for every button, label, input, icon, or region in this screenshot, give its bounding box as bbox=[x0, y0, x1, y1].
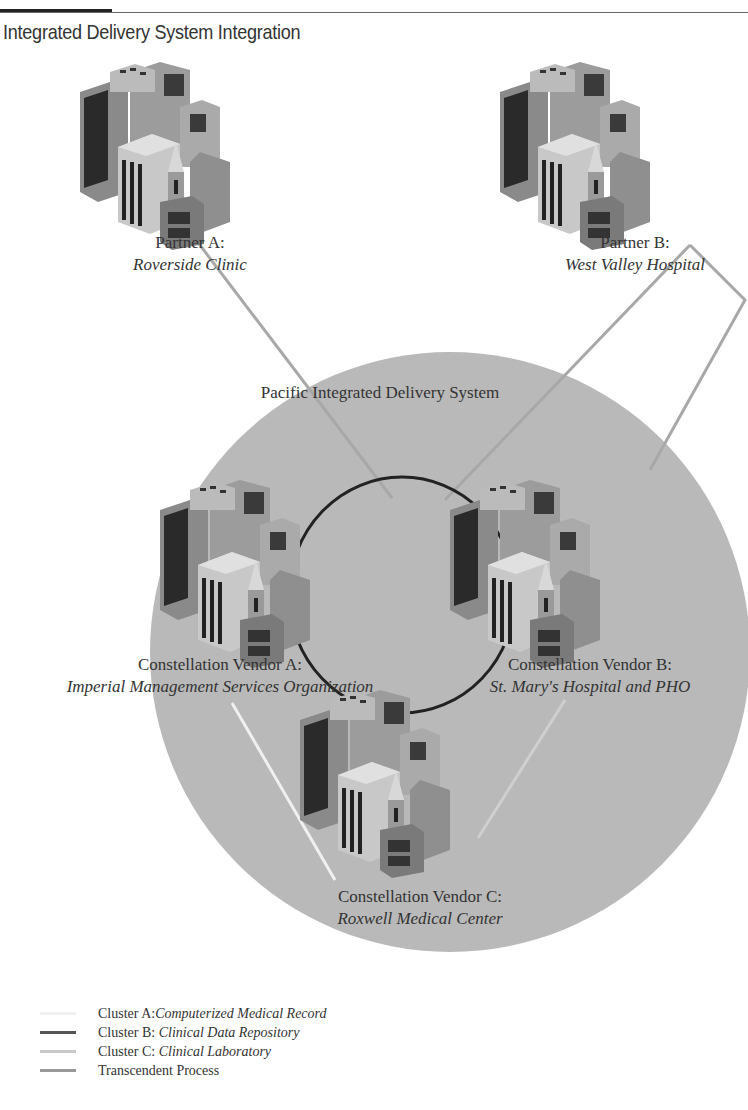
legend-item-cluster-c: Cluster C: Clinical Laboratory bbox=[40, 1042, 327, 1061]
node-heading: Partner B: bbox=[520, 232, 748, 254]
legend-swatch bbox=[40, 1050, 76, 1053]
node-name: St. Mary's Hospital and PHO bbox=[450, 676, 730, 698]
building-icon-partner-b bbox=[500, 62, 650, 250]
node-name: West Valley Hospital bbox=[520, 254, 748, 276]
node-name: Roverside Clinic bbox=[70, 254, 310, 276]
node-vendor-b: Constellation Vendor B: St. Mary's Hospi… bbox=[450, 654, 730, 698]
node-name: Imperial Management Services Organizatio… bbox=[20, 676, 420, 698]
node-name: Roxwell Medical Center bbox=[290, 908, 550, 930]
legend: Cluster A:Computerized Medical Record Cl… bbox=[40, 1004, 327, 1080]
system-circle bbox=[150, 352, 748, 952]
node-heading: Partner A: bbox=[70, 232, 310, 254]
node-vendor-c: Constellation Vendor C: Roxwell Medical … bbox=[290, 886, 550, 930]
legend-item-cluster-b: Cluster B: Clinical Data Repository bbox=[40, 1023, 327, 1042]
node-heading: Constellation Vendor A: bbox=[20, 654, 420, 676]
legend-swatch bbox=[40, 1031, 76, 1034]
legend-swatch bbox=[40, 1012, 76, 1015]
node-heading: Constellation Vendor C: bbox=[290, 886, 550, 908]
legend-item-transcendent: Transcendent Process bbox=[40, 1061, 327, 1080]
node-partner-b: Partner B: West Valley Hospital bbox=[520, 232, 748, 276]
building-icon-partner-a bbox=[80, 62, 230, 250]
legend-swatch bbox=[40, 1069, 76, 1072]
system-label: Pacific Integrated Delivery System bbox=[200, 382, 560, 404]
node-heading: Constellation Vendor B: bbox=[450, 654, 730, 676]
diagram-canvas bbox=[0, 0, 748, 1110]
node-vendor-a: Constellation Vendor A: Imperial Managem… bbox=[20, 654, 420, 698]
legend-item-cluster-a: Cluster A:Computerized Medical Record bbox=[40, 1004, 327, 1023]
node-partner-a: Partner A: Roverside Clinic bbox=[70, 232, 310, 276]
